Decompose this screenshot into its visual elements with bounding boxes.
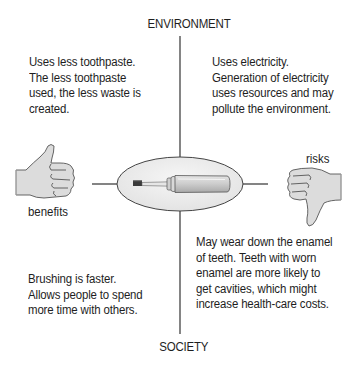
quadrant-environment-benefit: Uses less toothpaste. The less toothpast… <box>29 55 141 117</box>
label-risks: risks <box>306 152 330 166</box>
axis-label-environment: ENVIRONMENT <box>148 17 231 31</box>
label-benefits: benefits <box>28 205 68 219</box>
thumbs-up-icon <box>16 145 75 199</box>
quadrant-society-risk: May wear down the enamel of teeth. Teeth… <box>196 235 333 313</box>
quadrant-society-benefit: Brushing is faster. Allows people to spe… <box>28 272 143 319</box>
center-toothbrush <box>117 157 243 211</box>
quadrant-environment-risk: Uses electricity. Generation of electric… <box>212 55 334 117</box>
axis-label-society: SOCIETY <box>159 340 208 354</box>
thumbs-down-icon <box>288 168 341 226</box>
